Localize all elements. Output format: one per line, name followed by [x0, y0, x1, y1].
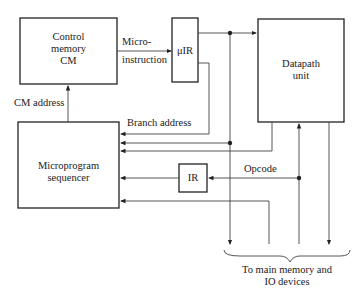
microprogrammed-control-diagram: Control memory CM Micro- instruction μIR… [0, 0, 364, 295]
footer-label: To main memory and IO devices [220, 264, 354, 288]
control-memory-line2: memory [20, 43, 117, 55]
microinstruction-label-2: instruction [122, 54, 167, 66]
datapath-label: Datapath unit [258, 58, 344, 82]
branch-address-label: Branch address [127, 117, 191, 129]
micro-ir-label: μIR [172, 45, 198, 57]
cm-address-label: CM address [14, 97, 64, 109]
sequencer-label: Microprogram sequencer [18, 160, 119, 184]
opcode-label: Opcode [244, 163, 277, 175]
footer-line1: To main memory and [220, 264, 354, 276]
microinstruction-label-1: Micro- [122, 36, 151, 48]
sequencer-line2: sequencer [18, 172, 119, 184]
footer-line2: IO devices [220, 276, 354, 288]
datapath-line1: Datapath [258, 58, 344, 70]
datapath-line2: unit [258, 70, 344, 82]
sequencer-line1: Microprogram [18, 160, 119, 172]
ir-label: IR [179, 172, 207, 184]
control-memory-line1: Control [20, 31, 117, 43]
control-memory-line3: CM [20, 55, 117, 67]
control-memory-label: Control memory CM [20, 31, 117, 67]
